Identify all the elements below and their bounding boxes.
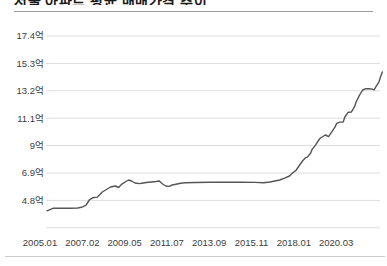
price-line (47, 72, 382, 211)
bottom-divider (5, 256, 385, 257)
y-tick-label: 6.9억 (22, 167, 44, 178)
x-tick-label: 2005.01 (23, 237, 57, 248)
x-tick-label: 2018.01 (277, 237, 311, 248)
price-chart: 17.4억15.3억13.2억11.1억9억6.9억4.8억2005.01200… (0, 0, 387, 266)
y-tick-label: 9억 (30, 140, 44, 151)
x-tick-label: 2009.05 (107, 237, 141, 248)
y-tick-label: 11.1억 (17, 113, 44, 124)
y-tick-label: 13.2억 (17, 85, 45, 96)
x-tick-label: 2015.11 (235, 237, 269, 248)
y-tick-label: 15.3억 (17, 58, 45, 69)
y-tick-label: 17.4억 (17, 30, 45, 41)
price-chart-page: 서울 아파트 평균 매매가격 추이 17.4억15.3억13.2억11.1억9억… (0, 0, 387, 266)
x-tick-label: 2013.09 (192, 237, 226, 248)
x-tick-label: 2007.02 (65, 237, 99, 248)
x-tick-label: 2011.07 (150, 237, 184, 248)
y-tick-label: 4.8억 (22, 195, 44, 206)
x-tick-label: 2020.03 (319, 237, 353, 248)
line-chart-canvas: 17.4억15.3억13.2억11.1억9억6.9억4.8억2005.01200… (0, 0, 387, 266)
